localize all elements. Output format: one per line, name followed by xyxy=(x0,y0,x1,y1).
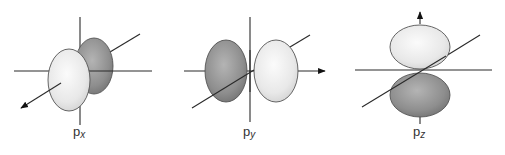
pz-label: pz xyxy=(413,124,425,140)
py-label: py xyxy=(243,124,255,140)
px-front-lobe xyxy=(48,49,90,111)
px-label: px xyxy=(73,124,85,140)
pz-bottom-lobe xyxy=(390,73,450,117)
py-left-lobe xyxy=(205,40,247,102)
py-right-lobe xyxy=(254,40,298,102)
py-label-subscript: y xyxy=(250,129,255,140)
pz-orbital xyxy=(355,12,492,124)
py-diagonal-axis-back xyxy=(290,35,310,47)
py-orbital xyxy=(184,17,325,122)
pz-label-subscript: z xyxy=(420,129,425,140)
pz-top-lobe xyxy=(390,25,450,69)
pz-diagonal-axis-back xyxy=(446,35,480,56)
px-label-subscript: x xyxy=(80,129,85,140)
px-orbital xyxy=(14,17,152,125)
